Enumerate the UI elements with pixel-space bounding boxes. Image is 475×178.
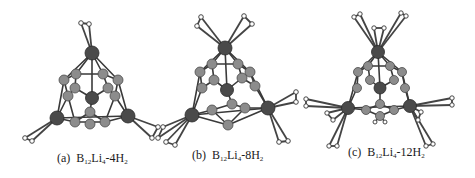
caption-a: (a) B12Li4-4H2 <box>57 152 128 166</box>
caption-c-prefix: (c) <box>348 145 361 159</box>
caption-b-formula: B12Li4-8H2 <box>212 148 263 162</box>
caption-a-prefix: (a) <box>57 151 70 165</box>
molecular-structure-figure: (a) B12Li4-4H2 (b) B12Li4-8H2 (c) B12Li4… <box>0 0 475 178</box>
caption-c: (c) B12Li4-12H2 <box>348 146 425 160</box>
caption-b: (b) B12Li4-8H2 <box>192 149 263 163</box>
caption-a-formula: B12Li4-4H2 <box>76 151 127 165</box>
caption-b-prefix: (b) <box>192 148 206 162</box>
caption-c-formula: B12Li4-12H2 <box>367 145 424 159</box>
